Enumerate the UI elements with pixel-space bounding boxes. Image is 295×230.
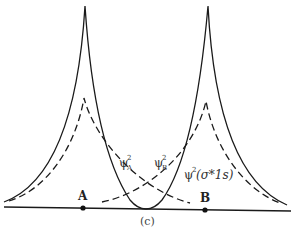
psi-b-squared-label: ψ 2 B xyxy=(154,154,167,172)
psi-sigma-star-label: ψ 2 (σ*1s) xyxy=(184,166,234,182)
svg-text:(σ*1s): (σ*1s) xyxy=(196,168,234,182)
nucleus-a-dot xyxy=(80,205,85,210)
svg-text:B: B xyxy=(162,164,167,172)
svg-text:2: 2 xyxy=(162,154,166,162)
psi-a-squared-label: ψ 2 A xyxy=(119,154,133,172)
sigma-star-density-curve xyxy=(4,6,287,209)
svg-text:2: 2 xyxy=(127,154,131,162)
figure-caption: (c) xyxy=(140,215,155,228)
nucleus-b-dot xyxy=(202,207,207,212)
svg-text:A: A xyxy=(126,164,133,172)
psi-a-squared-curve xyxy=(9,98,190,203)
antibonding-orbital-density-diagram: A B ψ 2 A ψ 2 B ψ 2 (σ*1s) (c) xyxy=(0,0,295,230)
nucleus-a-label: A xyxy=(77,189,88,203)
psi-b-squared-curve xyxy=(102,101,280,203)
nucleus-b-label: B xyxy=(200,191,210,205)
